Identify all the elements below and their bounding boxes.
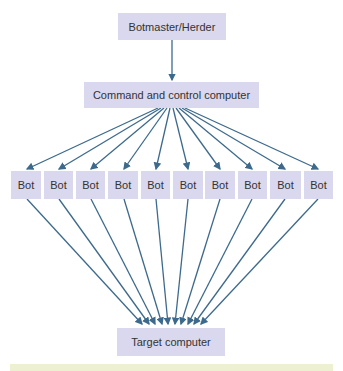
bot-label: Bot <box>18 179 35 191</box>
botmaster-label: Botmaster/Herder <box>129 21 216 33</box>
bot-label: Bot <box>82 179 99 191</box>
footer-band <box>10 364 333 371</box>
bot-label: Bot <box>50 179 67 191</box>
bot-label: Bot <box>180 179 197 191</box>
command-control-node: Command and control computer <box>84 82 259 108</box>
command-control-label: Command and control computer <box>93 89 250 101</box>
bot-label: Bot <box>212 179 229 191</box>
bot-node: Bot <box>141 171 170 199</box>
bot-node: Bot <box>44 171 73 199</box>
bot-node: Bot <box>238 171 267 199</box>
bot-label: Bot <box>147 179 164 191</box>
bot-node: Bot <box>76 171 105 199</box>
bot-node: Bot <box>270 171 301 199</box>
bot-label: Bot <box>277 179 294 191</box>
target-computer-node: Target computer <box>117 328 225 356</box>
botmaster-node: Botmaster/Herder <box>118 13 226 40</box>
bot-node: Bot <box>173 171 203 199</box>
bot-node: Bot <box>304 171 333 199</box>
bot-node: Bot <box>11 171 41 199</box>
target-computer-label: Target computer <box>131 336 210 348</box>
bot-node: Bot <box>205 171 235 199</box>
bot-label: Bot <box>115 179 132 191</box>
bot-label: Bot <box>310 179 327 191</box>
bot-label: Bot <box>244 179 261 191</box>
bot-node: Bot <box>108 171 138 199</box>
